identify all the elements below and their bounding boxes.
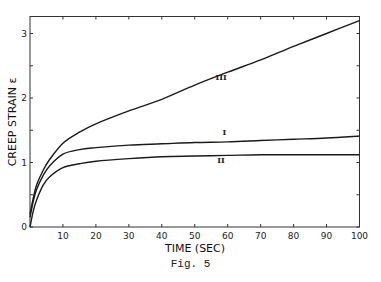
y-tick-label: 2 — [21, 93, 27, 103]
curve-III — [30, 21, 360, 215]
x-tick-label: 50 — [189, 231, 201, 241]
curve-I — [30, 136, 360, 217]
curve-labels: IIIIII — [215, 72, 226, 165]
curve-label-III: III — [215, 72, 226, 82]
x-tick-label: 20 — [90, 231, 102, 241]
y-tick-label: 1 — [21, 158, 27, 168]
curve-II — [30, 155, 360, 227]
creep-strain-chart: 1020304050607080901001230 IIIIII — [0, 0, 381, 282]
y-axis-label: CREEP STRAIN ε — [6, 78, 19, 167]
y-tick-label: 3 — [21, 29, 27, 39]
x-tick-label: 80 — [288, 231, 300, 241]
curve-label-II: II — [217, 155, 225, 165]
curves — [30, 21, 360, 227]
plot-frame — [30, 17, 360, 228]
x-axis-label: TIME (SEC) — [30, 242, 360, 255]
x-tick-label: 90 — [321, 231, 333, 241]
figure-caption: Fig. 5 — [0, 258, 381, 270]
x-tick-label: 40 — [156, 231, 168, 241]
axes-box — [30, 17, 360, 228]
x-tick-label: 70 — [255, 231, 267, 241]
axis-ticks: 1020304050607080901001230 — [21, 17, 368, 242]
x-tick-label: 60 — [222, 231, 234, 241]
x-tick-label: 30 — [123, 231, 135, 241]
origin-label: 0 — [21, 222, 27, 232]
curve-label-I: I — [223, 127, 227, 137]
x-tick-label: 10 — [57, 231, 69, 241]
x-tick-label: 100 — [351, 231, 368, 241]
